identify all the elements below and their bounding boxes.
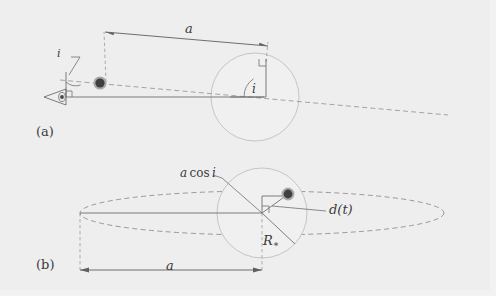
label-inclination-observer-a: i xyxy=(57,48,61,59)
label-projected-axis-b: a cos i xyxy=(180,167,216,179)
panel-tag-a: (a) xyxy=(36,125,54,138)
label-inclination-star-a: i xyxy=(252,83,256,95)
label-stellar-radius-b: R∗ xyxy=(263,234,279,248)
eye-icon-pupil-a xyxy=(60,95,64,99)
label-semimajor-axis-b: a xyxy=(166,259,174,272)
figure-container: (a) i a i (b) a cos i d(t) R∗ a xyxy=(0,0,496,296)
planet-dot-a xyxy=(95,78,104,87)
dimension-arrow-left-a-panel-b xyxy=(80,268,89,273)
planet-dot-b xyxy=(284,190,293,199)
panel-tag-b: (b) xyxy=(36,258,54,271)
label-projected-axis-cos-part: cos xyxy=(190,166,210,180)
label-projected-axis-i-part: i xyxy=(212,166,216,180)
eye-icon-a xyxy=(44,89,66,105)
label-separation-b: d(t) xyxy=(329,203,353,216)
label-stellar-radius-symbol: R xyxy=(263,233,273,248)
label-semimajor-axis-a: a xyxy=(185,22,193,35)
inclination-leader-a xyxy=(69,57,80,75)
panel-a-graphics xyxy=(44,32,448,141)
right-angle-marker-observer-a xyxy=(66,91,72,97)
label-stellar-radius-subscript: ∗ xyxy=(273,238,279,249)
panel-b-graphics xyxy=(80,168,444,272)
figure-vector-layer xyxy=(0,0,496,296)
inclination-arc-observer-a xyxy=(66,82,81,86)
planet-extension-dashed-a xyxy=(104,32,106,82)
dimension-arrow-right-a-panel-b xyxy=(253,268,262,273)
